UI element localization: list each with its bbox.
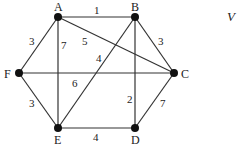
node-A — [54, 13, 62, 21]
graph-edges — [0, 0, 237, 146]
node-label: B — [131, 1, 139, 13]
edge-weight: 4 — [96, 53, 102, 64]
edge-weight: 7 — [61, 40, 67, 51]
edge-C-D — [135, 73, 174, 128]
node-label: C — [181, 68, 189, 80]
edge-weight: 3 — [29, 36, 35, 47]
node-F — [15, 69, 23, 77]
graph-diagram: 13753426347ABCDEF V — [0, 0, 237, 146]
edge-weight: 1 — [94, 5, 100, 16]
edge-weight: 3 — [29, 98, 35, 109]
edge-weight: 4 — [93, 132, 99, 143]
edge-A-F — [19, 17, 58, 73]
node-E — [54, 124, 62, 132]
node-D — [131, 124, 139, 132]
edge-F-E — [19, 73, 58, 128]
node-label: D — [131, 134, 140, 146]
node-label: A — [54, 1, 63, 13]
edge-weight: 2 — [127, 94, 133, 105]
edge-B-C — [135, 17, 174, 73]
edge-weight: 5 — [82, 36, 88, 47]
node-C — [170, 69, 178, 77]
truncated-label: V — [227, 9, 235, 25]
node-B — [131, 13, 139, 21]
node-label: E — [54, 134, 61, 146]
edge-weight: 6 — [72, 78, 78, 89]
edge-weight: 3 — [158, 36, 164, 47]
edge-weight: 7 — [160, 98, 166, 109]
node-label: F — [4, 68, 11, 80]
